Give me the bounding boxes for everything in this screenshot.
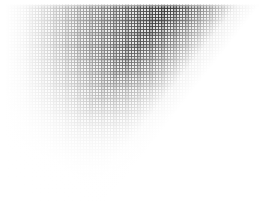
edge-feather-layer xyxy=(5,4,270,204)
halftone-plate xyxy=(5,4,270,204)
pattern-canvas xyxy=(0,0,274,207)
